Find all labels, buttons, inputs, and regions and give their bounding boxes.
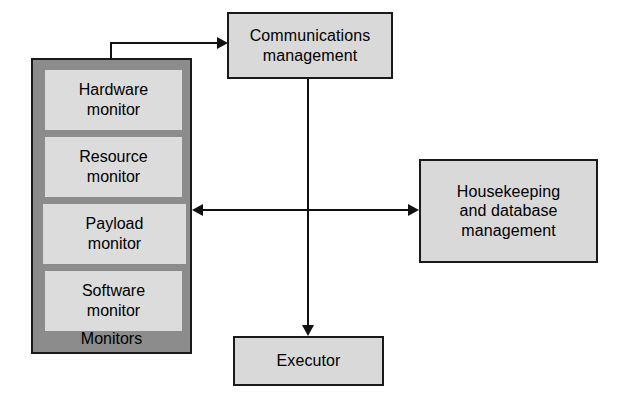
diagram-canvas: Hardware monitor Resource monitor Payloa… <box>0 0 619 406</box>
connector-monitors-housekeeping-bidirectional <box>0 0 619 406</box>
arrowhead-into-housekeeping <box>408 204 419 216</box>
connector-segment-horizontal <box>200 209 412 211</box>
arrowhead-into-monitors <box>192 204 203 216</box>
